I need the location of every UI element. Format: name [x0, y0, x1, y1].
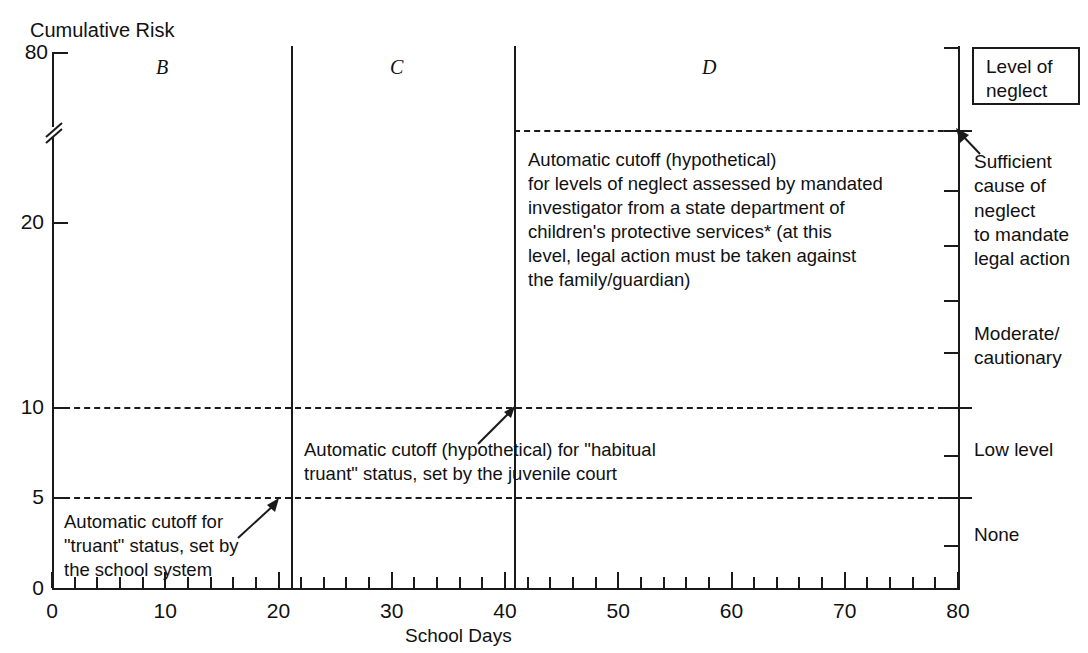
x-minor-tick	[798, 577, 800, 588]
x-minor-tick	[776, 577, 778, 588]
x-axis-label-10: 10	[140, 600, 190, 621]
right-axis-tick-inner	[944, 455, 959, 457]
y-axis-label-80: 80	[0, 41, 48, 62]
y-axis-label-20: 20	[0, 211, 44, 232]
x-minor-tick	[436, 577, 438, 588]
arrow-to-truant-cutoff	[232, 492, 296, 542]
right-axis-tick-inner	[944, 352, 959, 354]
annotation-mandated-investigator: Automatic cutoff (hypothetical) for leve…	[528, 148, 948, 292]
x-minor-tick	[595, 577, 597, 588]
cutoff-line-truant	[54, 497, 964, 499]
y-axis-title: Cumulative Risk	[30, 20, 174, 40]
y-axis-line-lower	[52, 137, 54, 590]
y-axis-label-5: 5	[0, 486, 44, 507]
region-label-b: B	[156, 57, 168, 77]
x-axis-label-60: 60	[707, 600, 757, 621]
x-minor-tick	[934, 577, 936, 588]
x-axis-label-40: 40	[480, 600, 530, 621]
x-minor-tick	[753, 577, 755, 588]
level-label-low: Low level	[974, 438, 1086, 462]
chart-figure: Cumulative Risk 80 20 10 5 0 01020304050…	[0, 0, 1088, 653]
cutoff-line-mandated-investigator	[514, 130, 964, 132]
x-minor-tick	[821, 577, 823, 588]
right-axis-tick-outer	[958, 407, 972, 409]
arrow-to-habitual-truant-cutoff	[470, 402, 534, 448]
right-axis-tick-inner	[944, 245, 959, 247]
x-axis-line	[52, 588, 960, 590]
x-minor-tick	[459, 577, 461, 588]
level-of-neglect-box: Level of neglect	[972, 47, 1080, 105]
y-axis-label-10: 10	[0, 396, 44, 417]
x-minor-tick	[527, 577, 529, 588]
right-axis-tick-inner	[944, 47, 959, 49]
x-minor-tick	[663, 577, 665, 588]
x-minor-tick	[912, 577, 914, 588]
x-minor-tick	[549, 577, 551, 588]
x-minor-tick	[391, 572, 393, 588]
right-axis-tick-outer	[958, 497, 972, 499]
x-minor-tick	[504, 572, 506, 588]
right-axis-tick-inner	[944, 497, 959, 499]
x-axis-label-50: 50	[593, 600, 643, 621]
x-minor-tick	[51, 572, 53, 588]
x-minor-tick	[617, 572, 619, 588]
x-minor-tick	[345, 577, 347, 588]
region-label-d: D	[702, 57, 716, 77]
x-minor-tick	[323, 577, 325, 588]
level-label-none: None	[974, 523, 1086, 547]
x-minor-tick	[640, 577, 642, 588]
right-axis-tick-inner	[944, 407, 959, 409]
right-axis-tick-inner	[944, 300, 959, 302]
x-axis-label-0: 0	[27, 600, 77, 621]
x-minor-tick	[889, 577, 891, 588]
x-axis-label-70: 70	[820, 600, 870, 621]
region-label-c: C	[390, 57, 403, 77]
y-tick-80	[52, 52, 68, 54]
x-minor-tick	[572, 577, 574, 588]
y-axis-label-0: 0	[0, 577, 44, 598]
axis-break-icon	[40, 118, 70, 148]
x-minor-tick	[481, 577, 483, 588]
x-minor-tick	[866, 577, 868, 588]
x-minor-tick	[368, 577, 370, 588]
x-minor-tick	[685, 577, 687, 588]
x-axis-title: School Days	[405, 626, 512, 645]
x-minor-tick	[844, 572, 846, 588]
right-axis-tick-inner	[944, 545, 959, 547]
x-axis-label-30: 30	[367, 600, 417, 621]
divider-day-40	[514, 46, 516, 589]
level-label-moderate: Moderate/ cautionary	[974, 322, 1086, 371]
y-axis-line-upper	[52, 52, 54, 127]
x-axis-label-20: 20	[254, 600, 304, 621]
y-tick-20	[52, 222, 68, 224]
x-axis-label-80: 80	[933, 600, 983, 621]
right-axis-tick-inner	[944, 190, 959, 192]
x-minor-tick	[413, 577, 415, 588]
x-minor-tick	[731, 572, 733, 588]
x-minor-tick	[708, 577, 710, 588]
level-label-sufficient: Sufficient cause of neglect to mandate l…	[974, 150, 1086, 272]
